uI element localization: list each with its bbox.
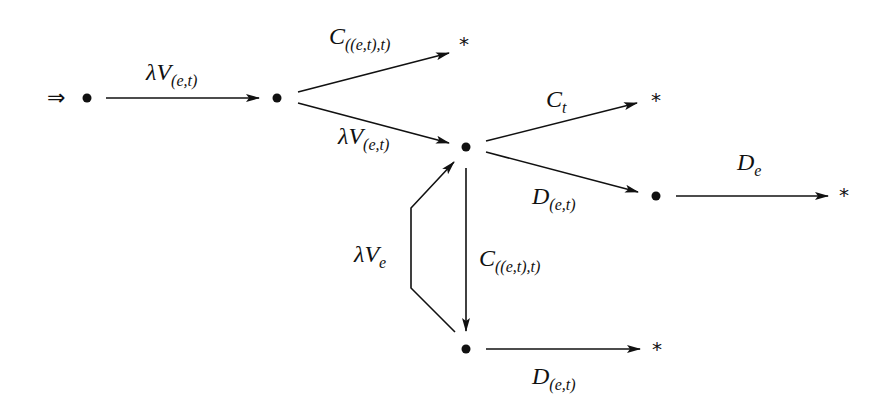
label-sub: ((e,t),t): [495, 258, 540, 275]
label-main: C: [546, 86, 562, 112]
label-main: D: [737, 149, 754, 175]
label-main: C: [479, 245, 495, 271]
label-sub: (e,t): [363, 136, 389, 153]
node-n4: [652, 192, 661, 201]
label-main: D: [532, 363, 549, 389]
diagram-canvas: [0, 0, 895, 409]
edge-n5-n3-loop: [411, 162, 455, 332]
edge-label-n3-n5: C((e,t),t): [479, 246, 540, 275]
terminal-t2: *: [651, 90, 661, 110]
label-main: λV: [146, 59, 171, 85]
label-sub: e: [754, 162, 761, 179]
node-n2: [273, 94, 282, 103]
edge-label-n1-n2: λV(e,t): [146, 60, 197, 89]
label-sub: (e,t): [171, 72, 197, 89]
node-n3: [462, 143, 471, 152]
edge-label-n5-t4: D(e,t): [532, 364, 576, 393]
label-sub: (e,t): [549, 196, 575, 213]
edge-label-n5-n3: λVe: [354, 242, 386, 271]
label-sub: e: [379, 254, 386, 271]
label-sub: (e,t): [549, 376, 575, 393]
edge-label-n3-n4: D(e,t): [532, 184, 576, 213]
node-n5: [462, 345, 471, 354]
edge-label-n3-t2: Ct: [546, 87, 566, 116]
label-main: D: [532, 183, 549, 209]
terminal-t3: *: [839, 185, 849, 205]
terminal-t1: *: [459, 34, 469, 54]
start-arrow-icon: ⇒: [47, 87, 65, 109]
edges: [106, 53, 828, 349]
node-n1: [83, 94, 92, 103]
edge-n2-t1: [298, 53, 449, 92]
edge-label-n2-t1: C((e,t),t): [329, 24, 390, 53]
label-sub: t: [562, 99, 566, 116]
label-main: λV: [354, 241, 379, 267]
label-main: λV: [338, 123, 363, 149]
edge-label-n4-t3: De: [737, 150, 761, 179]
label-sub: ((e,t),t): [345, 36, 390, 53]
terminal-t4: *: [652, 339, 662, 359]
label-main: C: [329, 23, 345, 49]
edge-label-n2-n3: λV(e,t): [338, 124, 389, 153]
